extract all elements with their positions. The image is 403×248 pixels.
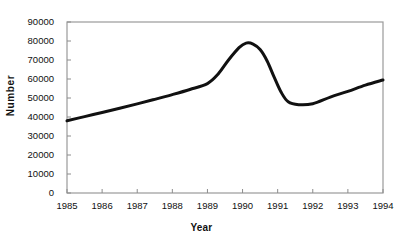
x-axis-tick-label: 1990 [232, 201, 253, 211]
x-axis-title: Year [0, 222, 403, 233]
x-axis-tick-label: 1985 [56, 201, 77, 211]
y-axis-title: Number [5, 48, 16, 144]
x-axis-tick-label: 1994 [372, 201, 393, 211]
x-axis-tick-label: 1986 [92, 201, 113, 211]
x-axis-tick-label: 1991 [267, 201, 288, 211]
x-axis-tick-label: 1989 [197, 201, 218, 211]
x-axis-tick-label: 1988 [162, 201, 183, 211]
line-chart-figure: 0100002000030000400005000060000700008000… [0, 0, 403, 248]
x-axis-tick-label: 1992 [302, 201, 323, 211]
x-axis-tick-label: 1993 [337, 201, 358, 211]
x-axis-tick-label: 1987 [127, 201, 148, 211]
x-axis-tick-label-group: 1985198619871988198919901991199219931994 [0, 0, 403, 248]
